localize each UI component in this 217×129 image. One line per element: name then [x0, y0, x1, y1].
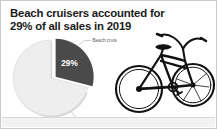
beach-cruisers-leader-line	[79, 41, 91, 45]
slice-value-label: 29%	[61, 59, 78, 68]
beach-cruiser-bicycle-icon	[113, 25, 217, 125]
pie-chart: 29% Beach cruisers Other	[5, 27, 117, 127]
pie-chart-svg: 29% Beach cruisers Other	[5, 27, 117, 127]
title-line-1: Beach cruisers accounted for	[10, 7, 190, 20]
footer-strip	[2, 117, 215, 127]
chart-card: Beach cruisers accounted for 29% of all …	[0, 0, 217, 129]
bicycle-illustration	[113, 25, 217, 125]
